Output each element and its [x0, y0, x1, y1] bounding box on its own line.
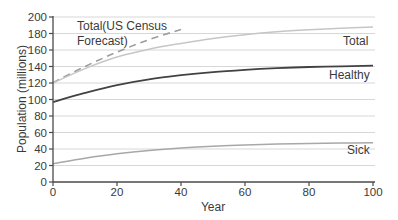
x-tick-label-40: 40 — [175, 186, 188, 198]
y-tick-label-120: 120 — [28, 77, 47, 89]
census-forecast-label-line1: Total(US Census — [77, 19, 167, 34]
y-tick-label-20: 20 — [34, 160, 47, 172]
population-chart: 020406080100 020406080100120140160180200… — [0, 0, 398, 220]
series-line-healthy — [53, 66, 373, 102]
y-tick-label-60: 60 — [34, 127, 47, 139]
y-tick-label-180: 180 — [28, 28, 47, 40]
sick-series-label: Sick — [347, 143, 370, 158]
y-tick-label-160: 160 — [28, 44, 47, 56]
x-tick-label-60: 60 — [239, 186, 252, 198]
healthy-series-label: Healthy — [329, 68, 370, 83]
x-tick-label-20: 20 — [111, 186, 124, 198]
census-forecast-label-line2: Forecast) — [77, 34, 167, 49]
y-tick-label-40: 40 — [34, 143, 47, 155]
y-tick-label-140: 140 — [28, 61, 47, 73]
x-axis-title: Year — [201, 200, 225, 215]
total-series-label: Total — [343, 34, 368, 49]
y-tick-labels: 020406080100120140160180200 — [28, 11, 47, 188]
x-tick-labels: 020406080100 — [50, 186, 383, 198]
y-tick-label-100: 100 — [28, 94, 47, 106]
census-forecast-label: Total(US Census Forecast) — [77, 19, 167, 49]
x-tick-label-0: 0 — [50, 186, 56, 198]
y-axis-title: Population (millions) — [15, 45, 30, 153]
chart-canvas: 020406080100 020406080100120140160180200 — [0, 0, 398, 220]
x-tick-label-100: 100 — [363, 186, 382, 198]
y-tick-label-80: 80 — [34, 110, 47, 122]
x-tick-label-80: 80 — [303, 186, 316, 198]
series-line-sick — [53, 143, 373, 164]
y-tick-label-0: 0 — [41, 176, 47, 188]
y-tick-label-200: 200 — [28, 11, 47, 23]
